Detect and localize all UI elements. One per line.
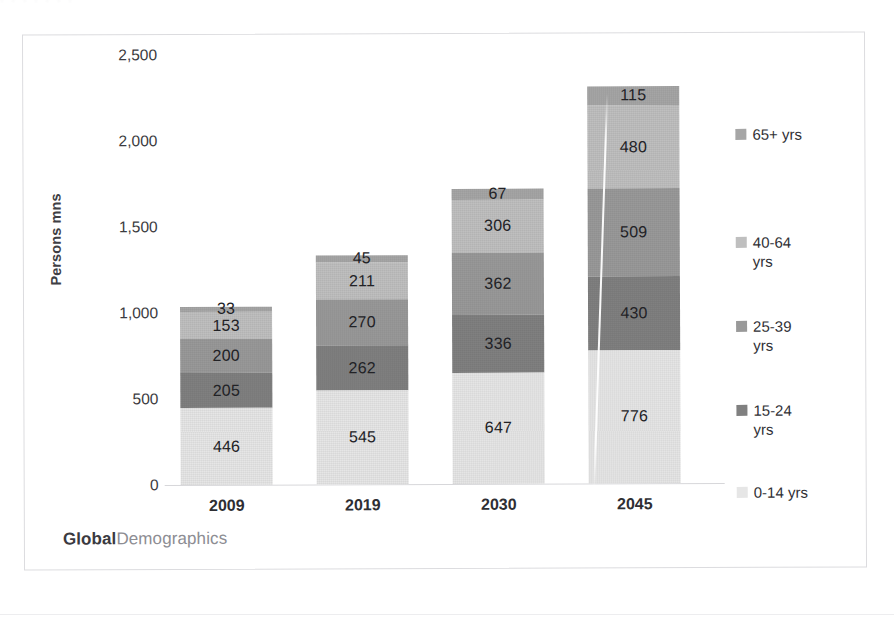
bar-value-label: 45 [353, 250, 371, 266]
x-tick-label: 2045 [570, 495, 700, 513]
bar-value-label: 200 [213, 348, 240, 364]
legend-label: 25-39yrs [753, 317, 792, 356]
y-tick-label: 1,000 [82, 305, 158, 321]
plot-wrap: Persons mns 05001,0001,5002,0002,500 331… [23, 32, 868, 571]
legend-item[interactable]: 65+ yrs [735, 124, 859, 144]
bar-segment[interactable]: 430 [588, 276, 680, 350]
bar-segment[interactable]: 362 [452, 252, 544, 315]
brand-logo: GlobalDemographics [63, 529, 227, 550]
legend-item[interactable]: 0-14 yrs [737, 482, 861, 502]
y-tick-label: 2,500 [81, 47, 157, 63]
bar-value-label: 270 [348, 314, 375, 330]
bar-segment[interactable]: 509 [588, 188, 680, 276]
bar-segment[interactable]: 270 [316, 299, 408, 346]
bar-value-label: 509 [620, 224, 647, 240]
bar-column[interactable]: 33153200205446 [180, 306, 273, 485]
brand-part-global: Global [63, 529, 117, 548]
bar-segment[interactable]: 262 [316, 345, 408, 390]
legend-swatch [735, 129, 746, 140]
bar-value-label: 480 [620, 139, 647, 155]
bar-value-label: 446 [213, 438, 240, 454]
legend-label: 0-14 yrs [754, 483, 808, 502]
y-axis-ticks: 05001,0001,5002,0002,500 [23, 32, 866, 35]
bar-value-label: 262 [349, 360, 376, 376]
x-tick-label: 2030 [434, 496, 564, 514]
chart-frame: Persons mns 05001,0001,5002,0002,500 331… [22, 31, 867, 570]
x-tick-label: 2009 [162, 497, 292, 515]
bar-segment[interactable]: 336 [452, 315, 544, 373]
x-axis-ticks: 2009201920302045 [23, 32, 866, 35]
y-tick-label: 500 [82, 391, 158, 407]
bar-segment[interactable]: 153 [180, 312, 272, 339]
bar-value-label: 115 [620, 87, 646, 103]
brand-part-demographics: Demographics [116, 529, 227, 548]
legend-item[interactable]: 25-39yrs [736, 316, 860, 355]
bar-column[interactable]: 45211270262545 [316, 255, 409, 485]
bar-value-label: 362 [484, 276, 511, 292]
bar-value-label: 306 [484, 218, 511, 234]
y-tick-label: 2,000 [81, 133, 157, 149]
legend-swatch [737, 487, 748, 498]
bar-value-label: 430 [620, 305, 647, 321]
bar-column[interactable]: 115480509430776 [587, 86, 681, 484]
bar-value-label: 33 [217, 301, 235, 317]
bar-segment[interactable]: 647 [452, 372, 544, 484]
bar-segment[interactable]: 480 [587, 106, 679, 189]
legend-label: 15-24yrs [753, 401, 792, 440]
x-tick-label: 2019 [298, 496, 428, 514]
bar-column[interactable]: 67306362336647 [452, 188, 545, 484]
y-tick-label: 0 [83, 477, 159, 493]
plot-area: 3315320020544645211270262545673063623366… [169, 53, 716, 485]
bar-value-label: 67 [488, 186, 506, 202]
bar-segment[interactable]: 200 [180, 338, 272, 373]
bar-segment[interactable]: 205 [180, 373, 272, 409]
legend-item[interactable]: 15-24yrs [736, 400, 860, 439]
legend-item[interactable]: 40-64yrs [736, 232, 860, 271]
bar-value-label: 153 [212, 317, 239, 333]
bar-value-label: 205 [213, 382, 240, 398]
legend-label: 40-64yrs [753, 233, 792, 272]
legend-swatch [736, 237, 747, 248]
y-tick-label: 1,500 [82, 219, 158, 235]
bar-segment[interactable]: 211 [316, 263, 408, 300]
scan-top-artifact: · · · · · · · [0, 0, 894, 14]
bar-value-label: 647 [485, 420, 512, 436]
scan-artifact-text: · · · · · · · [0, 0, 74, 7]
bar-segment[interactable]: 446 [180, 408, 272, 485]
bar-value-label: 545 [349, 429, 376, 445]
page-edge [0, 614, 894, 615]
bar-value-label: 776 [621, 408, 648, 424]
bar-segment[interactable]: 115 [587, 86, 679, 106]
bar-value-label: 336 [484, 336, 511, 352]
bar-segment[interactable]: 67 [452, 188, 544, 200]
bar-segment[interactable]: 545 [316, 390, 408, 484]
bar-segment[interactable]: 306 [452, 200, 544, 253]
bar-segment[interactable]: 776 [588, 350, 681, 484]
legend-swatch [736, 405, 747, 416]
bar-value-label: 211 [349, 273, 375, 289]
legend-swatch [736, 321, 747, 332]
y-axis-title: Persons mns [47, 159, 64, 319]
legend-label: 65+ yrs [752, 125, 802, 144]
